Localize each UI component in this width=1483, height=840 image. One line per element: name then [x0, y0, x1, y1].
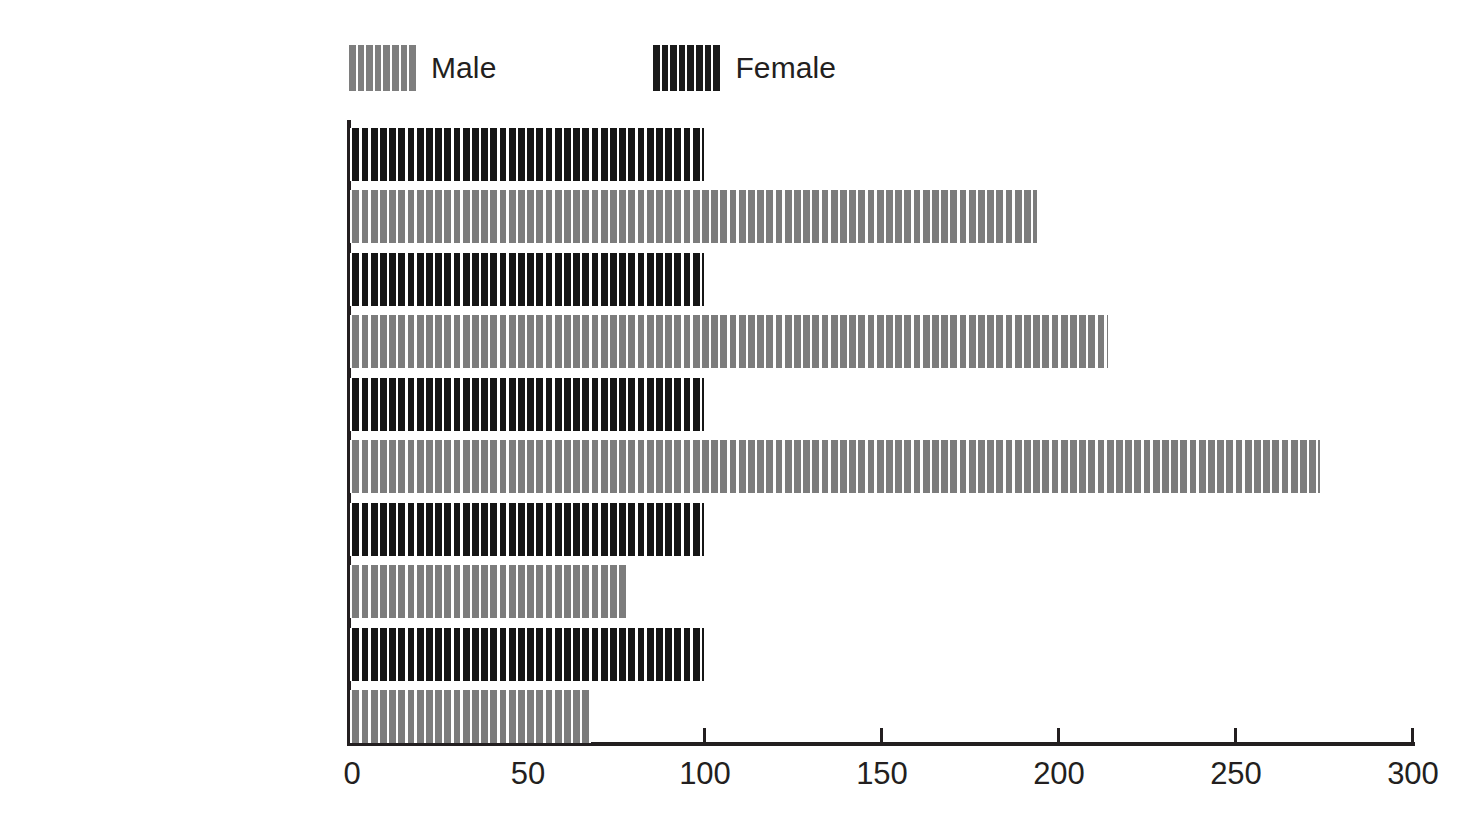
horizontal-bar-chart: Male Female 0 50 100 150 200 250 300 For: [0, 0, 1483, 840]
x-tick-label-200: 200: [1033, 756, 1085, 792]
x-tick-200: [1057, 728, 1060, 742]
chart-legend: Male Female: [347, 42, 836, 94]
x-tick-label-50: 50: [511, 756, 545, 792]
x-tick-label-0: 0: [343, 756, 360, 792]
legend-entry-female: Female: [651, 45, 836, 91]
x-tick-100: [703, 728, 706, 742]
bar-female-2: [350, 253, 704, 306]
x-tick-label-250: 250: [1210, 756, 1262, 792]
x-tick-label-150: 150: [856, 756, 908, 792]
bar-female-5: [350, 628, 704, 681]
x-tick-150: [880, 728, 883, 742]
bar-male-3: [350, 440, 1320, 493]
legend-label-male: Male: [431, 51, 496, 85]
bar-male-5: [350, 690, 591, 743]
bar-male-1: [350, 190, 1037, 243]
legend-label-female: Female: [735, 51, 836, 85]
bar-male-2: [350, 315, 1108, 368]
legend-entry-male: Male: [347, 45, 496, 91]
male-swatch-icon: [347, 45, 417, 91]
x-tick-300: [1411, 728, 1414, 742]
bar-male-4: [350, 565, 626, 618]
bar-female-4: [350, 503, 704, 556]
bar-female-3: [350, 378, 704, 431]
bar-female-1: [350, 128, 704, 181]
x-tick-250: [1234, 728, 1237, 742]
female-swatch-icon: [651, 45, 721, 91]
x-tick-label-300: 300: [1387, 756, 1439, 792]
x-tick-label-100: 100: [679, 756, 731, 792]
